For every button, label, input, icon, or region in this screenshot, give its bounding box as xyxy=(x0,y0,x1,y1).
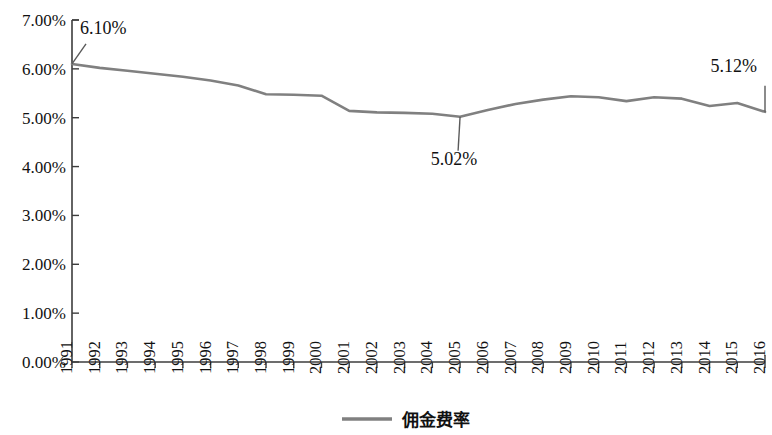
y-axis-tick-label: 6.00% xyxy=(22,60,66,79)
x-axis-tick-label: 2010 xyxy=(584,341,603,374)
x-axis-tick-label: 1998 xyxy=(251,341,270,374)
y-axis-tick-label: 5.00% xyxy=(22,109,66,128)
x-axis-tick-label: 2001 xyxy=(334,341,353,374)
y-axis-tick-label: 3.00% xyxy=(22,206,66,225)
x-axis-tick-label: 2015 xyxy=(722,341,741,374)
x-axis-tick-label: 2003 xyxy=(390,341,409,374)
x-axis-tick-label: 1997 xyxy=(223,341,242,374)
x-axis-tick-label: 2013 xyxy=(667,341,686,374)
annotation-leader-line xyxy=(458,117,460,151)
x-axis-tick-label: 1992 xyxy=(85,341,104,374)
x-axis-tick-label: 2016 xyxy=(750,341,769,374)
x-axis-tick-label: 2009 xyxy=(556,341,575,374)
annotation-leader-line xyxy=(72,44,86,64)
x-axis-tick-label: 2004 xyxy=(417,341,436,374)
annotation-label: 5.12% xyxy=(711,56,758,76)
chart-canvas: 0.00%1.00%2.00%3.00%4.00%5.00%6.00%7.00%… xyxy=(0,0,772,435)
x-axis-tick-label: 2000 xyxy=(306,341,325,374)
annotation-label: 6.10% xyxy=(80,18,127,38)
x-axis-tick-label: 2008 xyxy=(528,341,547,374)
x-axis-tick-label: 2011 xyxy=(611,342,630,374)
x-axis-tick-label: 2007 xyxy=(501,341,520,374)
legend-entry-label: 佣金费率 xyxy=(401,410,470,430)
annotation-label: 5.02% xyxy=(431,149,478,169)
x-axis-tick-label: 2012 xyxy=(639,341,658,374)
commission-rate-line-chart: 0.00%1.00%2.00%3.00%4.00%5.00%6.00%7.00%… xyxy=(0,0,772,435)
y-axis-tick-label: 4.00% xyxy=(22,158,66,177)
x-axis-tick-label: 2006 xyxy=(473,341,492,374)
x-axis-tick-label: 2005 xyxy=(445,341,464,374)
x-axis-tick-label: 1991 xyxy=(57,341,76,374)
y-axis-tick-label: 1.00% xyxy=(22,304,66,323)
x-axis-tick-label: 2014 xyxy=(695,341,714,374)
y-axis-tick-label: 2.00% xyxy=(22,255,66,274)
x-axis-tick-label: 1993 xyxy=(112,341,131,374)
series-line-commission-rate xyxy=(72,64,765,117)
x-axis-tick-label: 2002 xyxy=(362,341,381,374)
x-axis-tick-label: 1996 xyxy=(196,341,215,374)
x-axis-tick-label: 1999 xyxy=(279,341,298,374)
x-axis-tick-label: 1994 xyxy=(140,341,159,374)
y-axis-tick-label: 7.00% xyxy=(22,11,66,30)
x-axis-tick-label: 1995 xyxy=(168,341,187,374)
